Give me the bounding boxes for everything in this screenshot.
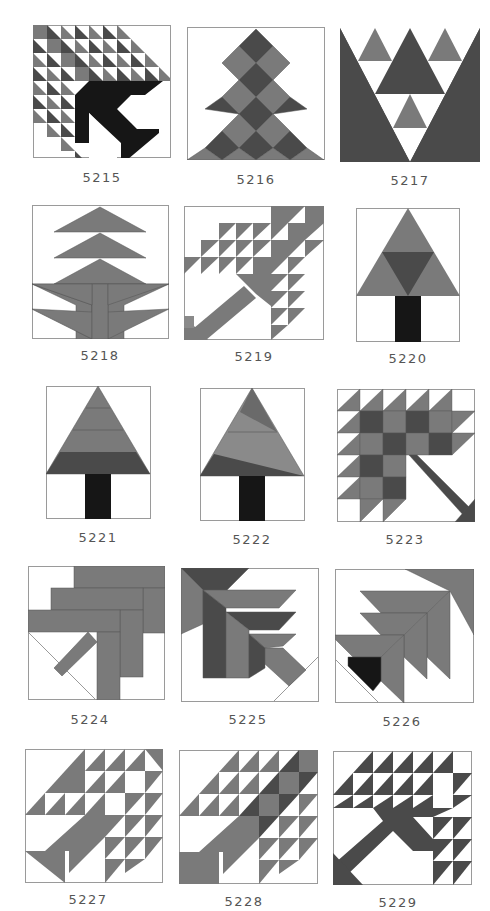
quilt-block-5224	[28, 566, 165, 700]
quilt-block-5217	[340, 28, 480, 162]
block-number-5223: 5223	[355, 532, 455, 547]
quilt-block-5215	[33, 25, 171, 158]
block-number-5218: 5218	[50, 348, 150, 363]
block-number-5217: 5217	[360, 173, 460, 188]
quilt-block-5225	[181, 568, 319, 702]
quilt-block-5219	[184, 206, 324, 340]
quilt-block-5226	[335, 569, 474, 703]
block-number-5227: 5227	[38, 892, 138, 907]
block-number-5222: 5222	[202, 532, 302, 547]
quilt-block-5223	[337, 389, 475, 522]
block-number-5219: 5219	[204, 349, 304, 364]
quilt-block-5220	[356, 208, 460, 342]
quilt-block-5221	[46, 386, 151, 519]
quilt-block-5229	[333, 751, 472, 885]
quilt-block-5222	[200, 388, 305, 521]
block-number-5229: 5229	[348, 895, 448, 910]
quilt-block-5227	[25, 749, 163, 883]
block-number-5215: 5215	[52, 170, 152, 185]
block-number-5224: 5224	[40, 712, 140, 727]
block-number-5225: 5225	[198, 712, 298, 727]
block-number-5221: 5221	[48, 530, 148, 545]
quilt-block-5228	[179, 750, 318, 884]
quilt-block-5218	[32, 205, 169, 339]
block-number-5220: 5220	[358, 351, 458, 366]
block-number-5216: 5216	[206, 172, 306, 187]
quilt-block-5216	[187, 27, 325, 160]
block-number-5228: 5228	[194, 894, 294, 909]
block-number-5226: 5226	[352, 714, 452, 729]
